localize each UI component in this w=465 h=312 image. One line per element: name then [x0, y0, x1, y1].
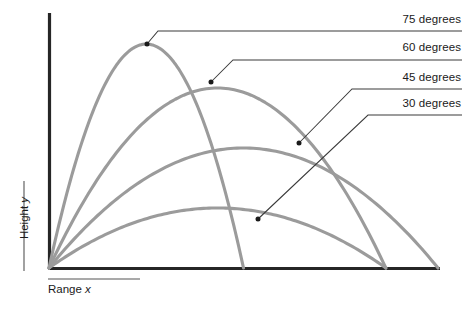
- x-axis-label-variable: x: [85, 283, 91, 295]
- y-axis-label-main: Height: [18, 206, 30, 239]
- callout-anchor-dot-45-degrees: [297, 141, 302, 146]
- trajectory-curve-30-degrees: [49, 208, 386, 268]
- callout-label-45-degrees: 45 degrees: [402, 71, 461, 83]
- y-axis-label-variable: y: [18, 197, 30, 203]
- chart-canvas: [0, 0, 465, 312]
- projectile-trajectory-figure: 75 degrees 60 degrees 45 degrees 30 degr…: [0, 0, 465, 312]
- trajectory-curves-group: [49, 44, 438, 268]
- callout-anchor-dot-30-degrees: [256, 217, 261, 222]
- callout-leaders-group: [145, 31, 463, 222]
- x-axis-label-main: Range: [48, 283, 82, 295]
- y-axis-label: Height y: [18, 182, 30, 254]
- trajectory-curve-60-degrees: [49, 88, 386, 268]
- callout-anchor-dot-75-degrees: [145, 42, 150, 47]
- callout-label-30-degrees: 30 degrees: [402, 97, 461, 109]
- x-axis-label: Range x: [48, 283, 91, 295]
- callout-label-60-degrees: 60 degrees: [402, 41, 461, 53]
- callout-label-75-degrees: 75 degrees: [402, 13, 461, 25]
- y-axis-label-wrap: Height y: [8, 180, 38, 270]
- callout-anchor-dot-60-degrees: [209, 80, 214, 85]
- callout-leader-30-degrees: [258, 115, 462, 219]
- axes-group: [48, 13, 440, 269]
